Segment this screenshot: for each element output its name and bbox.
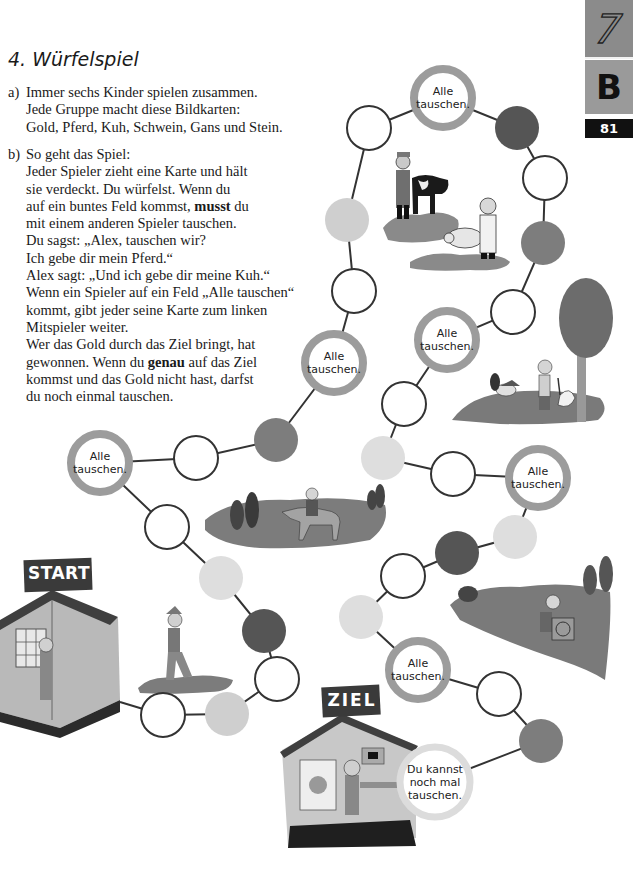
plain-field [145,505,189,549]
goal-sign: ZIEL [323,690,381,710]
colored-field [242,609,286,653]
alle-tauschen-field-label: Alletauschen. [420,327,474,353]
plain-field [491,290,535,334]
alle-tauschen-field-label: Alletauschen. [307,350,361,376]
text: tauschen. [408,789,462,802]
start-house-illustration [0,558,120,738]
text: tauschen. [416,98,470,111]
plain-field [174,436,218,480]
text: Alle [433,85,453,98]
goal-bubble-label: Du kannstnoch maltauschen. [407,763,463,802]
colored-field [495,106,539,150]
text: Alle [324,350,344,363]
plain-field [477,672,521,716]
colored-field [205,692,249,736]
colored-field [519,719,563,763]
plain-field [381,554,425,598]
alle-tauschen-field-label: Alletauschen. [73,450,127,476]
colored-field [361,436,405,480]
alle-tauschen-field-label: Alletauschen. [511,465,565,491]
text: tauschen. [73,463,127,476]
plain-field [523,156,567,200]
alle-tauschen-field-label: Alletauschen. [416,85,470,111]
alle-tauschen-field-label: Alletauschen. [391,657,445,683]
plain-field [255,657,299,701]
colored-field [325,198,369,242]
plain-field [332,269,376,313]
text: Du kannst [407,763,463,776]
plain-field [382,382,426,426]
colored-field [493,515,537,559]
text: tauschen. [420,340,474,353]
walking-man-illustration [138,606,233,694]
colored-field [199,556,243,600]
text: Alle [528,465,548,478]
plain-field [141,693,185,737]
farmer-cow-illustration [383,152,459,243]
game-board [0,0,633,890]
text: Alle [437,327,457,340]
text: tauschen. [391,670,445,683]
start-sign: START [26,563,92,583]
text: tauschen. [511,478,565,491]
colored-field [521,221,565,265]
text: Alle [408,657,428,670]
plain-field [431,452,475,496]
colored-field [339,595,383,639]
colored-field [435,531,479,575]
text: noch mal [410,776,461,789]
plain-field [347,106,391,150]
man-stone-cart-illustration [450,556,613,680]
colored-field [254,418,298,462]
rider-horse-illustration [205,484,386,548]
board-fields [71,69,567,817]
text: Alle [90,450,110,463]
text: tauschen. [307,363,361,376]
